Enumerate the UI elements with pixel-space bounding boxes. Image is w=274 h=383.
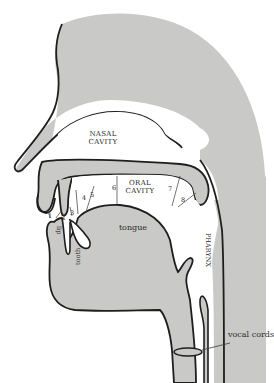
place-number-5: 5 xyxy=(90,191,94,199)
place-number-7: 7 xyxy=(168,185,172,193)
place-number-8: 8 xyxy=(181,196,185,204)
pharynx-label: PHARYNX xyxy=(204,233,212,267)
nasal-cavity-label-line2: CAVITY xyxy=(89,138,118,146)
tooth-label: tooth xyxy=(74,248,82,265)
oral-cavity-label-line2: CAVITY xyxy=(126,187,155,195)
place-number-4: 4 xyxy=(82,194,86,202)
place-number-2: 2 xyxy=(61,214,65,222)
place-number-6: 6 xyxy=(112,184,116,192)
vocal-tract-diagram: NASAL CAVITY ORAL CAVITY tongue lip toot… xyxy=(0,0,274,383)
lip-label: lip xyxy=(55,226,63,234)
nasal-cavity-label-line1: NASAL xyxy=(89,130,116,138)
oral-cavity-label-line1: ORAL xyxy=(129,179,151,187)
place-number-1: 1 xyxy=(48,212,52,220)
place-number-3: 3 xyxy=(70,209,74,217)
vocal-cords xyxy=(174,348,202,356)
tongue-label: tongue xyxy=(119,223,147,232)
vocal-cords-label: vocal cords xyxy=(227,330,274,339)
